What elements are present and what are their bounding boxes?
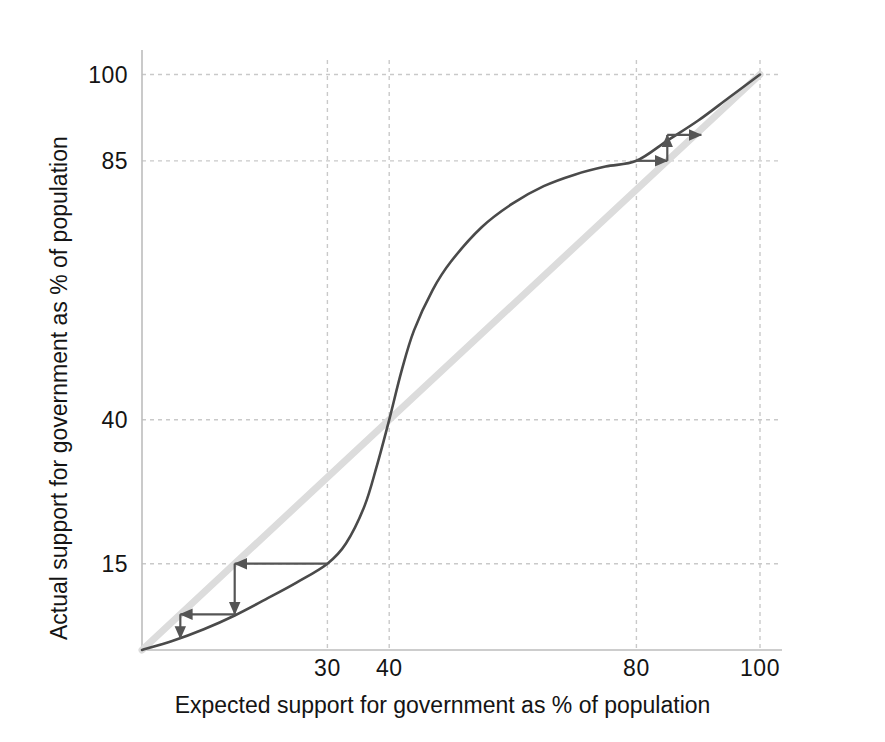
x-tick-label-100: 100 bbox=[740, 655, 780, 682]
cobweb-arrows bbox=[180, 135, 701, 639]
x-tick-label-30: 30 bbox=[314, 655, 341, 682]
x-tick-label-40: 40 bbox=[376, 655, 403, 682]
chart-plot-area bbox=[0, 0, 885, 742]
x-axis-title: Expected support for government as % of … bbox=[175, 692, 711, 719]
chart-figure: 154085100304080100 Expected support for … bbox=[0, 0, 885, 742]
y-tick-label-100: 100 bbox=[60, 61, 128, 88]
y-axis-title: Actual support for government as % of po… bbox=[46, 136, 73, 640]
x-tick-label-80: 80 bbox=[623, 655, 650, 682]
